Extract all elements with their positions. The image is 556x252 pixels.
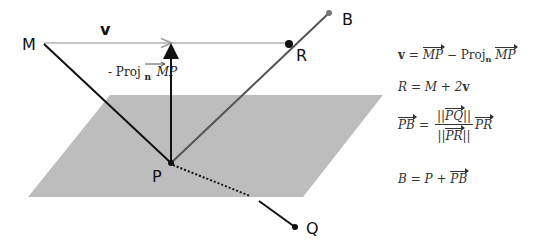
eq-pb-equals: = — [419, 118, 429, 132]
eq-b-mid: P + — [425, 172, 447, 186]
norm-close-den: || — [463, 129, 471, 143]
eq-r-lhs: R — [398, 80, 407, 94]
eq-v-proj: Proj — [461, 48, 486, 62]
label-v: v — [100, 20, 111, 39]
eq-b-vec-pb: PB — [450, 172, 467, 186]
point-b-dot — [326, 10, 332, 16]
eq-pb-den: PR — [445, 129, 462, 143]
norm-close: || — [463, 109, 471, 123]
eq-v-vec-mp: MP — [423, 48, 443, 62]
eq-pb-lhs: PB — [398, 118, 415, 132]
eq-pb-num: PQ — [445, 109, 463, 123]
label-b: B — [342, 10, 353, 29]
label-m: M — [22, 35, 36, 54]
equation-r: R = M + 2v — [398, 80, 469, 94]
label-q: Q — [306, 219, 319, 238]
eq-b-lhs: B — [398, 172, 407, 186]
plane — [28, 95, 383, 197]
equations-panel: v = MP − Projn MP R = M + 2v PB = ||PQ||… — [398, 0, 556, 252]
label-p: P — [152, 167, 162, 186]
norm-open: || — [437, 109, 445, 123]
eq-v-lhs: v — [398, 48, 405, 62]
point-r-dot — [285, 40, 293, 48]
eq-b-equals: = — [411, 172, 421, 186]
eq-v-equals: = — [409, 48, 419, 62]
eq-r-rhs: M + 2 — [425, 80, 463, 94]
eq-v-vec-mp-2: MP — [495, 48, 515, 62]
segment-pq-visible — [259, 201, 295, 227]
point-q-dot — [292, 224, 298, 230]
equation-b: B = P + PB — [398, 172, 467, 186]
eq-v-minus: − — [447, 48, 457, 62]
equation-v: v = MP − Projn MP — [398, 48, 516, 64]
eq-pb-fraction: ||PQ|| ||PR|| — [435, 106, 473, 143]
eq-v-proj-sub: n — [486, 54, 492, 64]
label-r: R — [296, 46, 307, 65]
reflection-diagram: M P R B Q v - Proj n MP — [0, 0, 390, 252]
eq-r-v: v — [462, 80, 469, 94]
equation-pb: PB = ||PQ|| ||PR|| PR — [398, 106, 492, 143]
eq-pb-rhs: PR — [475, 118, 492, 132]
eq-r-equals: = — [411, 80, 421, 94]
point-p-dot — [168, 160, 174, 166]
label-projection: - Proj n MP — [108, 65, 178, 83]
